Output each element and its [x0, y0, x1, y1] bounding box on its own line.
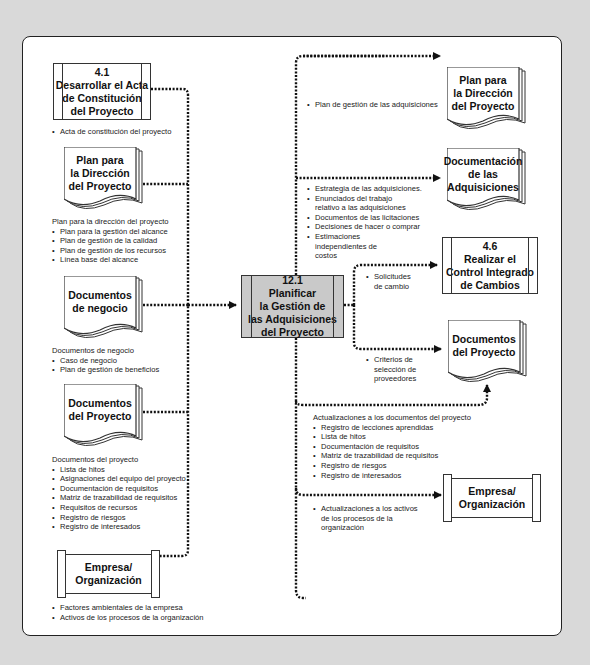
- list-item: Plan de gestión de las adquisiciones: [307, 100, 438, 110]
- output-control-items: Solicitudes de cambio: [366, 272, 421, 291]
- list-item: Documentación de requisitos: [52, 484, 186, 494]
- doc-title-line: Adquisiciones: [447, 181, 519, 194]
- process-title-line: Realizar el: [464, 253, 516, 266]
- output-doc-adquisiciones[interactable]: Documentación de las Adquisiciones: [447, 148, 527, 214]
- doc-title-line: de las: [468, 168, 498, 181]
- input-acta-items: Acta de constitución del proyecto: [52, 127, 171, 137]
- list-item: Matriz de trazabilidad de requisitos: [313, 451, 471, 461]
- scroll-cap-left: [443, 474, 452, 522]
- list-item: Estrategia de las adquisiciones.: [307, 184, 442, 194]
- scroll-title-line: Organización: [459, 498, 526, 511]
- list-item: Registro de interesados: [52, 522, 186, 532]
- center-process-title-3: las Adquisiciones: [248, 313, 337, 326]
- list-item: Caso de negocio: [52, 356, 159, 366]
- input-empresa-items: Factores ambientales de la empresa Activ…: [52, 603, 204, 622]
- scroll-cap-right: [532, 474, 541, 522]
- center-process-title-1: Planificar: [269, 287, 316, 300]
- list-item: Documentación de requisitos: [313, 442, 471, 452]
- scroll-title-line: Empresa/: [85, 561, 132, 574]
- output-empresa-items: Actualizaciones a los activos de los pro…: [313, 504, 428, 533]
- process-number: 4.1: [95, 66, 110, 79]
- doc-title-line: la Dirección: [70, 167, 130, 180]
- doc-title-line: Documentos: [452, 333, 516, 346]
- doc-title-line: del Proyecto: [68, 180, 131, 193]
- input-empresa-organizacion[interactable]: Empresa/ Organización: [66, 554, 151, 594]
- doc-title-line: Documentación: [444, 155, 523, 168]
- list-heading: Plan para la dirección del proyecto: [52, 217, 169, 227]
- process-title-line: Desarrollar el Acta: [56, 79, 148, 92]
- list-heading: Actualizaciones a los documentos del pro…: [313, 413, 471, 423]
- list-item: Actualizaciones a los activos de los pro…: [313, 504, 428, 533]
- list-item: Plan de gestión de beneficios: [52, 365, 159, 375]
- output-empresa-organizacion[interactable]: Empresa/ Organización: [452, 478, 532, 518]
- list-item: Enunciados del trabajo relativo a las ad…: [307, 194, 411, 213]
- list-item: Decisiones de hacer o comprar: [307, 222, 442, 232]
- list-item: Registro de lecciones aprendidas: [313, 423, 471, 433]
- doc-title-line: del Proyecto: [451, 100, 514, 113]
- center-process-title-4: del Proyecto: [261, 326, 324, 339]
- center-process-number: 12.1: [282, 274, 302, 287]
- doc-title-line: del Proyecto: [68, 410, 131, 423]
- list-item: Activos de los procesos de la organizaci…: [52, 613, 204, 623]
- doc-title-line: Plan para: [459, 74, 506, 87]
- list-item: Matriz de trazabilidad de requisitos: [52, 493, 186, 503]
- scroll-cap-right: [151, 550, 160, 598]
- scroll-title-line: Empresa/: [468, 485, 515, 498]
- input-doc-plan[interactable]: Plan para la Dirección del Proyecto: [64, 147, 144, 213]
- list-item: Plan de gestión de los recursos: [52, 246, 169, 256]
- doc-title-line: Plan para: [76, 154, 123, 167]
- list-item: Requisitos de recursos: [52, 503, 186, 513]
- list-item: Asignaciones del equipo del proyecto: [52, 474, 186, 484]
- list-item: Solicitudes de cambio: [366, 272, 421, 291]
- process-title-line: de Constitución: [62, 92, 141, 105]
- list-item: Lista de hitos: [52, 465, 186, 475]
- output-docs-items: Criterios de selección de proveedores: [366, 355, 446, 384]
- list-heading: Documentos de negocio: [52, 346, 159, 356]
- list-heading: Documentos del proyecto: [52, 455, 186, 465]
- doc-title-line: del Proyecto: [452, 346, 515, 359]
- doc-title-line: Documentos: [68, 289, 132, 302]
- input-doc-negocio[interactable]: Documentos de negocio: [64, 276, 144, 342]
- input-docs-items: Documentos del proyecto Lista de hitos A…: [52, 455, 186, 532]
- list-item: Registro de riesgos: [52, 513, 186, 523]
- doc-title-line: de negocio: [72, 302, 127, 315]
- input-process-4-1[interactable]: 4.1 Desarrollar el Acta de Constitución …: [53, 63, 151, 120]
- center-process-title-2: la Gestión de: [260, 300, 326, 313]
- list-item: Lista de hitos: [313, 432, 471, 442]
- scroll-title-line: Organización: [75, 574, 142, 587]
- input-negocio-items: Documentos de negocio Caso de negocio Pl…: [52, 346, 159, 375]
- scroll-cap-left: [57, 550, 66, 598]
- input-doc-proyecto[interactable]: Documentos del Proyecto: [64, 384, 144, 450]
- process-title-line: del Proyecto: [70, 105, 133, 118]
- list-item: Estimaciones independientes de costos: [307, 232, 399, 261]
- process-number: 4.6: [483, 240, 498, 253]
- list-item: Registro de riesgos: [313, 461, 471, 471]
- list-item: Acta de constitución del proyecto: [52, 127, 171, 137]
- process-title-line: Control Integrado: [446, 266, 534, 279]
- output-updates-items: Actualizaciones a los documentos del pro…: [313, 413, 471, 480]
- output-doc-plan[interactable]: Plan para la Dirección del Proyecto: [447, 67, 527, 133]
- process-title-line: de Cambios: [460, 279, 520, 292]
- output-doc-proyecto[interactable]: Documentos del Proyecto: [448, 320, 528, 386]
- output-plan-items: Plan de gestión de las adquisiciones: [307, 100, 438, 110]
- input-plan-items: Plan para la dirección del proyecto Plan…: [52, 217, 169, 265]
- list-item: Plan para la gestión del alcance: [52, 227, 169, 237]
- list-item: Plan de gestión de la calidad: [52, 236, 169, 246]
- list-item: Línea base del alcance: [52, 255, 169, 265]
- list-item: Documentos de las licitaciones: [307, 213, 442, 223]
- list-item: Criterios de selección de proveedores: [366, 355, 446, 384]
- doc-title-line: Documentos: [68, 397, 132, 410]
- output-adquisiciones-items: Estrategia de las adquisiciones. Enuncia…: [307, 184, 442, 261]
- center-process-box[interactable]: 12.1 Planificar la Gestión de las Adquis…: [241, 275, 344, 338]
- doc-title-line: la Dirección: [453, 87, 513, 100]
- output-process-4-6[interactable]: 4.6 Realizar el Control Integrado de Cam…: [442, 237, 538, 294]
- list-item: Factores ambientales de la empresa: [52, 603, 204, 613]
